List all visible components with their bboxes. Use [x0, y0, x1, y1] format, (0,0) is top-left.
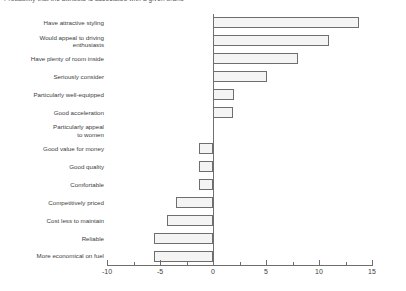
bar: [199, 143, 213, 154]
category-label: Seriously consider: [3, 73, 104, 80]
category-label: Particularly appeal to women: [3, 123, 104, 137]
category-label: Reliable: [3, 235, 104, 242]
category-label: Comfortable: [3, 181, 104, 188]
x-axis-minor-tick: [240, 262, 241, 265]
plot-area: [107, 14, 372, 265]
bar: [199, 179, 213, 190]
x-axis-tick-label: 15: [360, 268, 384, 275]
zero-baseline-axis: [213, 14, 214, 265]
x-axis-tick: [372, 260, 373, 265]
bar: [213, 71, 267, 82]
bar: [213, 107, 233, 118]
x-axis-line: [107, 265, 373, 266]
bar: [176, 197, 213, 208]
category-label: Good value for money: [3, 145, 104, 152]
category-label: Good acceleration: [3, 109, 104, 116]
x-axis-minor-tick: [187, 262, 188, 265]
x-axis-tick-label: 10: [307, 268, 331, 275]
x-axis-tick: [213, 260, 214, 265]
category-label: More economical on fuel: [3, 252, 104, 259]
x-axis-tick: [266, 260, 267, 265]
bar: [167, 215, 213, 226]
category-label: Would appeal to driving enthusiasts: [3, 34, 104, 48]
bar-chart: Probability that the attribute is associ…: [0, 0, 406, 291]
bar: [213, 53, 298, 64]
bar: [213, 17, 359, 28]
bar: [154, 251, 213, 262]
x-axis-tick: [107, 260, 108, 265]
bar: [199, 161, 213, 172]
category-label: Have plenty of room inside: [3, 55, 104, 62]
x-axis-minor-tick: [293, 262, 294, 265]
category-label: Competitively priced: [3, 199, 104, 206]
x-axis-minor-tick: [134, 262, 135, 265]
x-axis-tick-label: 5: [254, 268, 278, 275]
category-label: Particularly well-equipped: [3, 91, 104, 98]
x-axis-tick-label: -5: [148, 268, 172, 275]
x-axis-minor-tick: [346, 262, 347, 265]
bar: [213, 89, 234, 100]
x-axis-tick: [319, 260, 320, 265]
bar: [154, 233, 213, 244]
category-label: Have attractive styling: [3, 19, 104, 26]
x-axis-tick: [160, 260, 161, 265]
category-label: Cost less to maintain: [3, 217, 104, 224]
x-axis-tick-label: -10: [95, 268, 119, 275]
x-axis-tick-label: 0: [201, 268, 225, 275]
chart-title: Probability that the attribute is associ…: [4, 0, 184, 3]
category-axis-labels: Have attractive stylingWould appeal to d…: [0, 14, 104, 265]
bar: [213, 35, 329, 46]
category-label: Good quality: [3, 163, 104, 170]
